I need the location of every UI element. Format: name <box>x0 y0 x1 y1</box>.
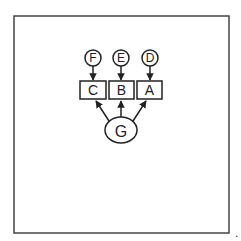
node-g: G <box>105 117 137 143</box>
edge-g-a <box>133 101 146 121</box>
node-e: E <box>113 50 129 66</box>
node-a: A <box>137 81 162 99</box>
node-label: F <box>89 51 96 65</box>
node-c: C <box>80 81 106 99</box>
node-b: B <box>109 81 134 99</box>
node-label: E <box>117 51 125 65</box>
node-label: B <box>117 82 126 98</box>
node-label: C <box>88 82 98 98</box>
node-label: D <box>146 51 155 65</box>
trailing-period: . <box>235 226 238 240</box>
node-f: F <box>85 50 101 66</box>
diagram-canvas: F E D C B A G <box>0 0 241 241</box>
node-label: A <box>145 82 155 98</box>
node-label: G <box>115 123 127 140</box>
node-d: D <box>142 50 158 66</box>
edge-g-c <box>96 101 109 121</box>
